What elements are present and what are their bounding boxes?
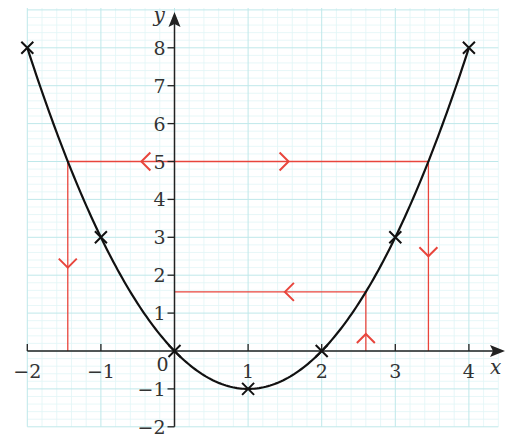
x-tick-label: 3 [389,360,401,382]
x-tick-label: 1 [242,360,254,382]
quadratic-graph: −2−101234−2−112345678xy [0,0,513,445]
y-tick-label: 8 [153,37,165,59]
y-tick-label: −1 [137,378,165,400]
x-tick-label: 4 [463,360,475,382]
x-tick-label: 2 [316,360,328,382]
y-tick-label: 5 [153,151,165,173]
y-tick-label: 4 [153,188,165,210]
x-tick-label: −1 [87,360,115,382]
x-tick-label: 0 [156,353,168,375]
y-tick-label: 6 [153,113,165,135]
y-axis-label: y [153,3,166,27]
y-tick-label: 7 [153,75,165,97]
y-tick-label: 2 [153,264,165,286]
y-tick-label: 1 [153,302,165,324]
x-axis-label: x [490,355,501,379]
y-tick-label: 3 [153,226,165,248]
x-tick-label: −2 [13,360,41,382]
y-tick-label: −2 [137,416,165,438]
